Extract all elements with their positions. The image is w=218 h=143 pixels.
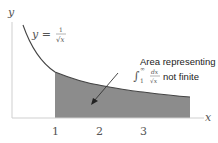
x-axis-label: x [205,111,212,124]
x-tick-2: 2 [96,125,103,138]
svg-text:√x: √x [150,77,158,84]
svg-text:∫: ∫ [133,69,140,83]
svg-text:Area representing: Area representing [140,56,216,67]
area-under-curve-chart: y x 1 2 3 y = 1 √x Area representing ∫ ∞… [0,0,218,143]
svg-text:1: 1 [140,77,144,84]
function-label: y = 1 √x [31,26,66,44]
svg-text:dx: dx [151,68,159,75]
x-tick-3: 3 [140,125,147,138]
svg-text:y =: y = [31,28,51,41]
y-axis-label: y [7,6,15,19]
annotation-text: Area representing ∫ ∞ 1 dx √x not finite [133,56,216,84]
svg-text:not finite: not finite [163,71,199,82]
svg-text:√x: √x [56,36,64,44]
x-tick-1: 1 [52,125,59,138]
svg-text:1: 1 [59,26,63,33]
svg-text:∞: ∞ [140,65,145,72]
